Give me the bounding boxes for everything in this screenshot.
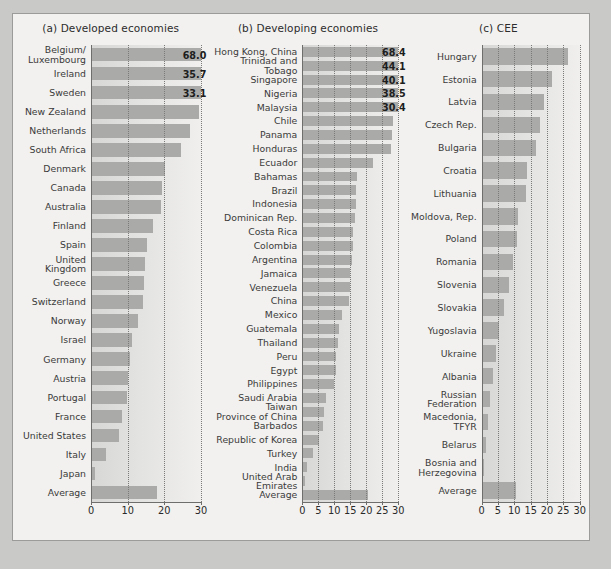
bar-row: Brazil [208,183,407,197]
bar-row: Peru [208,350,407,364]
bar-row: Canada [13,178,208,197]
x-axis-tick-label: 10 [328,505,340,516]
x-axis-tick-label: 20 [541,505,553,516]
bar-row: Australia [13,197,208,216]
bar-row-label: Lithuania [408,189,482,198]
bar-row-label: Japan [13,469,91,478]
bar-row-label: United Arab Emirates [208,472,302,491]
x-axis-tick-label: 15 [524,505,536,516]
bar-row-label: Estonia [408,75,482,84]
gridline [382,45,384,502]
x-axis-tick-label: 30 [392,505,404,516]
bar-row: Singapore40.1 [208,73,407,87]
bar-row-label: Netherlands [13,126,91,135]
bar-row-label: Yugoslavia [408,326,482,335]
bar-row: Spain [13,235,208,254]
bar-row-label: Sweden [13,88,91,97]
bar-row-label: Republic of Korea [208,435,302,444]
bar [302,435,319,445]
bar-row-label: Bosnia and Herzegovina [408,458,482,477]
bar-row: China [208,294,407,308]
x-axis-tick-label: 5 [495,505,501,516]
bar-row-label: Malaysia [208,103,302,112]
bar [302,144,390,154]
bar [91,371,128,385]
bar-row: Honduras [208,142,407,156]
bar-row: Venezuela [208,280,407,294]
x-axis-tick-label: 15 [344,505,356,516]
bar [482,345,497,361]
bar-track [91,464,208,483]
bar-row-label: Poland [408,234,482,243]
bar-track [91,312,208,331]
bar-row-label: Thailand [208,338,302,347]
panel-developed-economies: (a) Developed economies Belgium/ Luxembo… [13,14,208,540]
bar-track [91,445,208,464]
bar-row-label: Turkey [208,449,302,458]
x-axis-tick-label: 10 [508,505,520,516]
bar [302,130,392,140]
bar-track [91,255,208,274]
x-axis-tick-label: 20 [158,505,170,516]
bar [91,295,143,309]
bar [302,282,349,292]
bar-row-label: Norway [13,316,91,325]
bar-row: United States [13,426,208,445]
bar-row-label: Portugal [13,393,91,402]
gridline [334,45,336,502]
bar-row: New Zealand [13,102,208,121]
panel-a-axis: 0102030 [13,502,208,522]
bar [302,116,393,126]
bar-row-label: Bahamas [208,172,302,181]
bar-row-label: Chile [208,116,302,125]
bar-row: Trinidad and Tobago44.1 [208,59,407,73]
bar-row-label: Panama [208,130,302,139]
panel-b-title: (b) Developing economies [208,22,407,34]
bar-row-label: Albania [408,372,482,381]
bar-row-label: Brazil [208,186,302,195]
bar-row: United Kingdom [13,255,208,274]
panel-c-axis: 051015202530 [408,502,589,522]
bar-row: Finland [13,216,208,235]
bar-row-label: Czech Rep. [408,120,482,129]
panel-a-rows: Belgium/ Luxembourg68.0Ireland35.7Sweden… [13,45,208,502]
bar [302,310,342,320]
bar-row-label: Barbados [208,421,302,430]
bar-row-label: Australia [13,202,91,211]
bar [482,185,526,201]
bar-row: Colombia [208,239,407,253]
bar-row: Guatemala [208,322,407,336]
gridline [498,45,500,502]
bar-row-label: Philippines [208,379,302,388]
bar-row-label: Switzerland [13,297,91,306]
bar-row: Average [13,483,208,502]
bar [91,352,130,366]
panel-a-plot-area: Belgium/ Luxembourg68.0Ireland35.7Sweden… [13,45,208,502]
bar-row: Philippines [208,377,407,391]
gridline [318,45,320,502]
bar-row: Norway [13,312,208,331]
bar-track [91,140,208,159]
bar-row: Indonesia [208,197,407,211]
bar-row-label: France [13,412,91,421]
bar [482,277,510,293]
bar-row: Switzerland [13,293,208,312]
panel-b-plot-area: Hong Kong, China68.4Trinidad and Tobago4… [208,45,407,502]
bar [302,172,356,182]
bar-value-label: 30.4 [382,102,406,113]
bar [302,199,356,209]
bar-row-label: Finland [13,221,91,230]
bar-track [91,216,208,235]
bar-value-label: 33.1 [183,87,207,98]
bar-row-label: Spain [13,240,91,249]
panel-b-rows: Hong Kong, China68.4Trinidad and Tobago4… [208,45,407,502]
bar-track: 33.1 [91,83,208,102]
bar-row: Dominican Rep. [208,211,407,225]
bar-row-label: Moldova, Rep. [408,212,482,221]
bar [91,333,132,347]
bar-row: Israel [13,331,208,350]
bar-row: Turkey [208,446,407,460]
bar-row-label: Guatemala [208,324,302,333]
gridline [531,45,533,502]
bar [482,94,544,110]
